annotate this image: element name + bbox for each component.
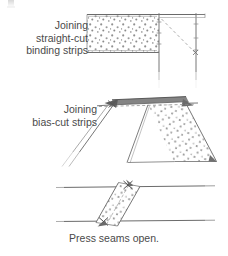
caption-straight-cut-line-3: binding strips [26, 44, 88, 57]
straight-cut-binding-join-diagram [87, 13, 205, 92]
diagonal-stitch-line [162, 19, 196, 53]
caption-straight-cut-line-1: Joining [26, 19, 88, 32]
caption-press-seams-line-1: Press seams open. [0, 232, 228, 245]
caption-bias-cut: Joining bias-cut strips [32, 103, 97, 128]
page-corner-artifact [7, 0, 15, 7]
caption-straight-cut-line-2: straight-cut [26, 32, 88, 45]
pressed-open-diagonal-seam-diagram [54, 180, 219, 227]
caption-straight-cut: Joining straight-cut binding strips [26, 19, 88, 57]
caption-bias-cut-line-2: bias-cut strips [32, 116, 97, 129]
caption-press-seams: Press seams open. [0, 232, 228, 245]
lower-fabric-edge [56, 220, 215, 221]
caption-bias-cut-line-1: Joining [32, 103, 97, 116]
